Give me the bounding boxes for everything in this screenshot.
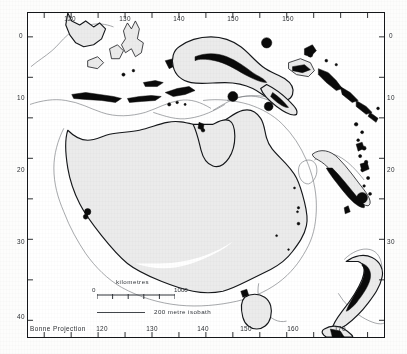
new-guinea	[172, 37, 297, 115]
scale-bar: kilometres 0 1000	[92, 278, 262, 298]
right-tick-0: 0	[389, 33, 393, 39]
right-tick-30: 30	[387, 239, 395, 245]
scale-bar-title: kilometres	[116, 278, 149, 285]
bismarck-solomon-islands	[289, 45, 380, 123]
scale-bar-min: 0	[92, 286, 95, 293]
left-tick-40: 40	[17, 314, 25, 320]
marker-sw-australia-2	[83, 214, 88, 219]
top-tick-120: 120	[64, 16, 76, 22]
right-tick-20: 20	[387, 167, 395, 173]
projection-label: Bonne Projection	[30, 325, 86, 332]
australia-mainland	[65, 110, 307, 293]
left-tick-20: 20	[17, 167, 25, 173]
scale-bar-max: 1000	[174, 286, 188, 293]
top-tick-160: 160	[282, 16, 294, 22]
right-tick-10: 10	[387, 95, 395, 101]
bottom-tick-150: 150	[240, 326, 252, 332]
top-tick-130: 130	[119, 16, 131, 22]
bottom-tick-170: 170	[334, 326, 346, 332]
marker-port-moresby	[228, 92, 238, 102]
marker-new-britain	[308, 52, 313, 57]
marker-sw-australia	[84, 209, 90, 215]
marker-ne-png	[261, 38, 271, 48]
bottom-tick-130: 130	[146, 326, 158, 332]
left-tick-10: 10	[17, 95, 25, 101]
isobath-legend-label: 200 metre isobath	[154, 308, 211, 315]
marker-se-png	[264, 102, 273, 111]
bottom-tick-120: 120	[96, 326, 108, 332]
isobath-swatch	[97, 312, 145, 313]
left-tick-30: 30	[17, 239, 25, 245]
top-tick-150: 150	[227, 16, 239, 22]
left-tick-0: 0	[19, 33, 23, 39]
map-figure: .land{fill:#ebebeb;stroke:#15171a;stroke…	[0, 0, 407, 354]
marker-cape-york	[201, 128, 205, 132]
bottom-tick-140: 140	[197, 326, 209, 332]
isobath-legend-entry: 200 metre isobath	[92, 307, 262, 321]
bottom-tick-160: 160	[287, 326, 299, 332]
map-legend: kilometres 0 1000 200 metre isobath	[92, 278, 262, 321]
new-zealand	[322, 255, 382, 337]
marker-new-caledonia	[357, 192, 368, 203]
top-tick-140: 140	[173, 16, 185, 22]
scale-bar-ruler	[97, 294, 175, 299]
